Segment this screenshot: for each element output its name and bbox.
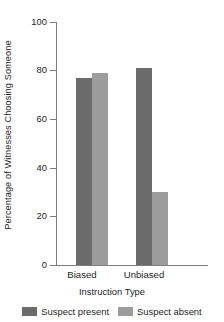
x-axis-title: Instruction Type (0, 286, 224, 297)
x-axis-line (56, 265, 208, 266)
legend-swatch-suspect-present (22, 307, 37, 316)
y-tick-label-60: 60 (37, 113, 47, 124)
y-tick-label-0: 0 (42, 259, 47, 270)
bar-unbiased-suspect-absent (152, 192, 168, 265)
legend-swatch-suspect-absent (118, 307, 133, 316)
x-tick-label-unbiased: Unbiased (115, 269, 173, 280)
y-tick-label-40: 40 (37, 162, 47, 173)
plot-area (56, 22, 208, 265)
bar-biased-suspect-absent (92, 73, 108, 265)
legend-label-suspect-present: Suspect present (41, 306, 109, 317)
y-tick-label-80: 80 (37, 64, 47, 75)
y-tick-label-100: 100 (31, 16, 47, 27)
bar-chart-figure: Percentage of Witnesses Choosing Someone… (0, 0, 224, 322)
y-tick-label-20: 20 (37, 210, 47, 221)
legend-label-suspect-absent: Suspect absent (137, 306, 202, 317)
y-axis-title: Percentage of Witnesses Choosing Someone (0, 0, 16, 270)
bar-biased-suspect-present (76, 78, 92, 265)
legend-item-suspect-present: Suspect present (22, 306, 109, 317)
legend-item-suspect-absent: Suspect absent (118, 306, 202, 317)
y-tick-0: 0 (50, 265, 56, 266)
y-axis-title-text: Percentage of Witnesses Choosing Someone (3, 40, 13, 229)
bar-unbiased-suspect-present (136, 68, 152, 265)
chart-legend: Suspect present Suspect absent (0, 306, 224, 317)
x-tick-label-biased: Biased (56, 269, 108, 280)
